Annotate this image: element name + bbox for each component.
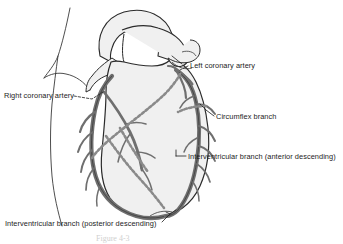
label-circumflex-branch: Circumflex branch xyxy=(216,112,276,121)
label-right-coronary-artery: Right coronary artery xyxy=(4,91,74,100)
label-interventricular-branch-anterior: Interventricular branch (anterior descen… xyxy=(188,152,336,161)
thoracic-outline xyxy=(44,8,90,226)
coronary-artery-figure: Left coronary artery Right coronary arte… xyxy=(0,0,343,244)
label-interventricular-branch-posterior: Interventricular branch (posterior desce… xyxy=(5,219,156,228)
heart-diagram xyxy=(0,0,343,244)
label-left-coronary-artery: Left coronary artery xyxy=(190,61,255,70)
figure-caption: Figure 4-3 xyxy=(96,234,130,243)
